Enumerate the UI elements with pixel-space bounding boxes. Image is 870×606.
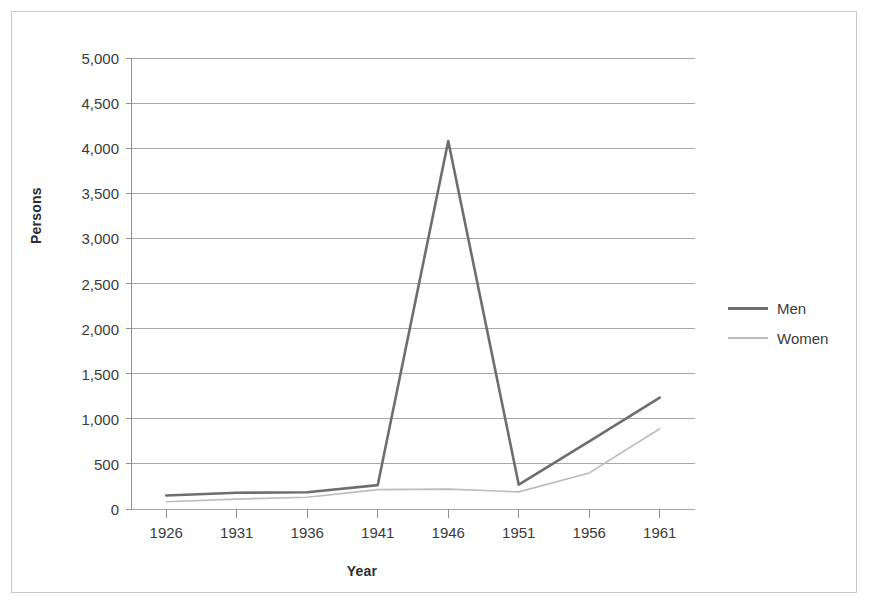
chart-container: 5,0004,5004,0003,5003,0002,5002,0001,500…: [11, 11, 857, 593]
series-line-men: [166, 141, 660, 495]
legend-label: Women: [777, 330, 828, 347]
x-tick-label: 1956: [573, 524, 606, 541]
y-tick-label: 5,000: [52, 50, 119, 67]
chart-legend: MenWomen: [728, 293, 828, 353]
legend-swatch-women: [728, 337, 768, 339]
y-tick-label: 4,500: [52, 95, 119, 112]
x-tick-label: 1926: [150, 524, 183, 541]
y-tick-label: 2,500: [52, 275, 119, 292]
y-tick-label: 3,000: [52, 230, 119, 247]
legend-item-men: Men: [728, 293, 828, 323]
legend-label: Men: [777, 300, 806, 317]
data-series-lines: [166, 141, 660, 502]
y-tick-label: 500: [52, 455, 119, 472]
x-tick-label: 1961: [643, 524, 676, 541]
y-tick-label: 1,500: [52, 365, 119, 382]
x-axis-title: Year: [12, 563, 712, 579]
y-tick-label: 1,000: [52, 410, 119, 427]
gridlines: [131, 58, 695, 509]
x-tick-label: 1936: [291, 524, 324, 541]
x-tick-label: 1951: [502, 524, 535, 541]
y-axis-title: Persons: [28, 187, 44, 244]
legend-swatch-men: [728, 307, 768, 310]
y-tick-label: 2,000: [52, 320, 119, 337]
y-tick-label: 4,000: [52, 140, 119, 157]
x-tick-label: 1946: [432, 524, 465, 541]
axis-tick-marks: [126, 58, 660, 518]
series-line-women: [166, 429, 660, 502]
y-tick-label: 3,500: [52, 185, 119, 202]
y-tick-label: 0: [52, 501, 119, 518]
legend-item-women: Women: [728, 323, 828, 353]
x-tick-label: 1931: [220, 524, 253, 541]
x-tick-label: 1941: [361, 524, 394, 541]
